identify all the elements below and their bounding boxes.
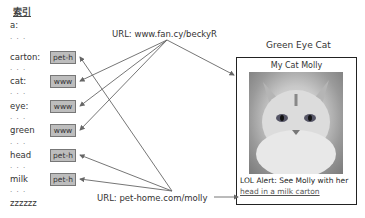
link-arrows — [0, 0, 365, 218]
